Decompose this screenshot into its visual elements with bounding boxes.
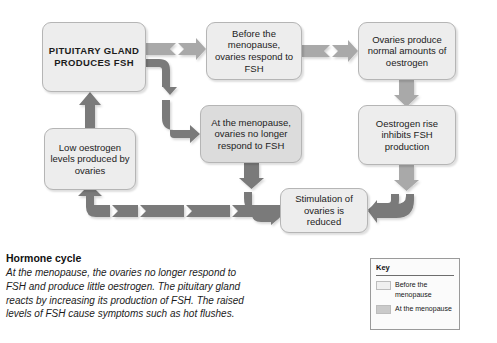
- node-stimulation-of-ovaries-reduced: Stimulation of ovaries is reduced: [280, 188, 368, 233]
- node-pituitary: PITUITARY GLAND PRODUCES FSH: [42, 22, 146, 92]
- node-ovaries-produce-normal-oestrogen: Ovaries produce normal amounts of oestro…: [358, 22, 456, 80]
- key-swatch-light: [376, 281, 391, 290]
- arrow-pituitary-to-at-menopause: [146, 59, 200, 143]
- caption-heading: Hormone cycle: [6, 252, 246, 264]
- key-item-before-menopause: Before the menopause: [376, 280, 454, 300]
- arrow-ovaries-normal-to-oestrogen-rise: [394, 80, 419, 107]
- arrow-before-to-ovaries-normal: [302, 40, 358, 62]
- arrow-pituitary-to-before: [146, 38, 206, 60]
- node-at-menopause-label: At the menopause, ovaries no longer resp…: [201, 117, 301, 152]
- arrow-oestrogen-rise-to-stimulation: [368, 165, 419, 223]
- node-oestrogen-rise-inhibits-fsh-label: Oestrogen rise inhibits FSH production: [359, 118, 455, 153]
- key-title: Key: [376, 263, 454, 276]
- key-label-before-menopause: Before the menopause: [395, 280, 454, 300]
- node-stimulation-of-ovaries-reduced-label: Stimulation of ovaries is reduced: [281, 193, 367, 228]
- arrow-low-oestrogen-to-pituitary: [79, 92, 101, 128]
- diagram-canvas: PITUITARY GLAND PRODUCES FSH Before the …: [0, 0, 497, 343]
- key-legend: Key Before the menopause At the menopaus…: [370, 258, 460, 330]
- caption-block: Hormone cycle At the menopause, the ovar…: [6, 252, 246, 321]
- node-before-menopause-label: Before the menopause, ovaries respond to…: [207, 28, 301, 74]
- node-oestrogen-rise-inhibits-fsh: Oestrogen rise inhibits FSH production: [358, 105, 456, 165]
- node-low-oestrogen-levels: Low oestrogen levels produced by ovaries: [44, 128, 136, 190]
- key-swatch-dark: [376, 305, 391, 314]
- node-pituitary-label: PITUITARY GLAND PRODUCES FSH: [43, 45, 145, 68]
- node-before-menopause: Before the menopause, ovaries respond to…: [206, 22, 302, 80]
- node-ovaries-produce-normal-oestrogen-label: Ovaries produce normal amounts of oestro…: [359, 34, 455, 69]
- node-low-oestrogen-levels-label: Low oestrogen levels produced by ovaries: [45, 142, 135, 177]
- key-label-at-menopause: At the menopause: [395, 304, 452, 314]
- caption-body: At the menopause, the ovaries no longer …: [6, 266, 246, 321]
- node-at-menopause: At the menopause, ovaries no longer resp…: [200, 105, 302, 163]
- key-item-at-menopause: At the menopause: [376, 304, 454, 314]
